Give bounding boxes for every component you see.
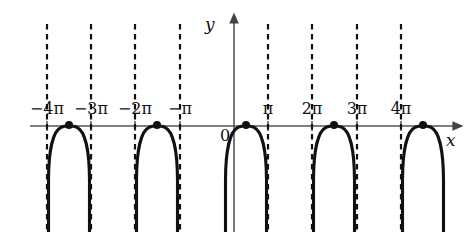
curve-branch <box>314 126 355 232</box>
maximum-point <box>330 121 338 129</box>
tick-label-3pi: 3π <box>335 101 379 117</box>
tick-label-2pi: 2π <box>290 101 334 117</box>
maxima-markers <box>65 121 427 129</box>
maximum-point <box>153 121 161 129</box>
function-graph-figure: y x 0 −4π −3π −2π −π π 2π 3π 4π <box>0 0 465 232</box>
origin-label: 0 <box>220 128 230 144</box>
x-axis-label: x <box>446 132 456 149</box>
curve-branch <box>226 126 267 232</box>
tick-label-4pi: 4π <box>379 101 423 117</box>
curve-branch <box>403 126 444 232</box>
maximum-point <box>65 121 73 129</box>
maximum-point <box>419 121 427 129</box>
tick-label-neg-4pi: −4π <box>22 101 72 117</box>
y-axis-label: y <box>205 16 215 33</box>
tick-label-neg-2pi: −2π <box>110 101 160 117</box>
curve-branch <box>49 126 90 232</box>
function-curve <box>49 126 444 232</box>
tick-label-pi: π <box>248 101 288 117</box>
maximum-point <box>242 121 250 129</box>
tick-label-neg-pi: −π <box>155 101 205 117</box>
curve-branch <box>137 126 178 232</box>
tick-label-neg-3pi: −3π <box>66 101 116 117</box>
